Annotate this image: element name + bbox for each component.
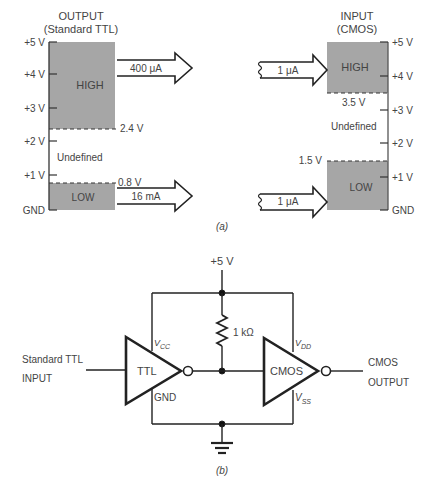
cmos-axis-tick: +1 V bbox=[392, 172, 413, 183]
output-title: OUTPUT bbox=[58, 10, 104, 22]
cmos-low-label: LOW bbox=[350, 182, 373, 193]
ttl-axis-tick: GND bbox=[23, 205, 45, 216]
input-title: INPUT bbox=[341, 10, 374, 22]
resistor-label: 1 kΩ bbox=[233, 327, 254, 338]
ttl-high-threshold: 2.4 V bbox=[120, 123, 144, 134]
cmos-axis-tick: +4 V bbox=[392, 71, 413, 82]
ttl-axis-tick: +3 V bbox=[24, 103, 45, 114]
cmos-inversion-bubble-icon bbox=[322, 367, 331, 376]
ttl-axis-tick: +5 V bbox=[24, 37, 45, 48]
ttl-vcc-label: VCC bbox=[154, 338, 171, 350]
output-label-line2: OUTPUT bbox=[368, 377, 409, 388]
ttl-undefined-label: Undefined bbox=[57, 152, 103, 163]
ground-icon bbox=[211, 443, 233, 453]
input-subtitle: (CMOS) bbox=[337, 23, 377, 35]
ttl-to-cmos-interface-diagram: OUTPUT (Standard TTL) HIGH 2.4 V Undefin… bbox=[0, 0, 431, 482]
ttl-gate-label: TTL bbox=[137, 365, 157, 377]
cmos-high-label: HIGH bbox=[341, 61, 369, 73]
supply-label: +5 V bbox=[211, 255, 235, 267]
cmos-vdd-label: VDD bbox=[295, 338, 311, 350]
resistor-icon bbox=[217, 315, 227, 346]
caption-a: (a) bbox=[216, 221, 228, 232]
input-label-line1: Standard TTL bbox=[22, 354, 83, 365]
ttl-low-threshold: 0.8 V bbox=[118, 177, 142, 188]
cmos-gate-label: CMOS bbox=[270, 365, 303, 377]
caption-b: (b) bbox=[216, 465, 228, 476]
cmos-axis-tick: GND bbox=[392, 205, 414, 216]
ttl-axis-tick: +4 V bbox=[24, 69, 45, 80]
ttl-high-label: HIGH bbox=[76, 79, 104, 91]
cmos-axis-tick: +5 V bbox=[392, 37, 413, 48]
ttl-gnd-label: GND bbox=[154, 392, 176, 403]
ttl-low-label: LOW bbox=[72, 192, 95, 203]
ttl-low-current: 16 mA bbox=[132, 191, 161, 202]
ttl-high-current: 400 μA bbox=[130, 63, 162, 74]
ttl-inversion-bubble-icon bbox=[184, 367, 193, 376]
cmos-high-threshold: 3.5 V bbox=[342, 97, 366, 108]
cmos-axis-tick: +3 V bbox=[392, 105, 413, 116]
input-label-line2: INPUT bbox=[22, 373, 52, 384]
ttl-axis-tick: +2 V bbox=[24, 136, 45, 147]
cmos-low-current: 1 μA bbox=[278, 196, 299, 207]
ttl-axis-tick: +1 V bbox=[24, 170, 45, 181]
output-label-line1: CMOS bbox=[368, 357, 398, 368]
cmos-high-current: 1 μA bbox=[278, 65, 299, 76]
cmos-low-threshold: 1.5 V bbox=[299, 155, 323, 166]
cmos-undefined-label: Undefined bbox=[331, 121, 377, 132]
interface-circuit bbox=[86, 270, 363, 453]
cmos-vss-label: VSS bbox=[295, 392, 311, 405]
ttl-output-levels: OUTPUT (Standard TTL) HIGH 2.4 V Undefin… bbox=[23, 10, 192, 216]
output-subtitle: (Standard TTL) bbox=[44, 23, 118, 35]
cmos-axis-tick: +2 V bbox=[392, 138, 413, 149]
cmos-input-levels: INPUT (CMOS) HIGH 3.5 V Undefined 1.5 V … bbox=[259, 10, 415, 217]
